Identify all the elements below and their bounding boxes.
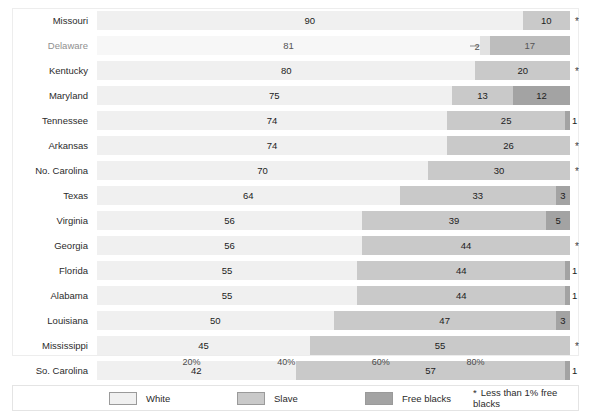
- bar-track: 7030: [97, 161, 570, 180]
- segment-value-label: 55: [222, 290, 233, 301]
- bar-track: 9010: [97, 11, 570, 30]
- bar-segment-white: 56: [97, 211, 362, 230]
- less-than-one-percent-marker: *: [575, 58, 579, 83]
- segment-value-label: 56: [224, 215, 235, 226]
- segment-value-label: 20: [517, 65, 528, 76]
- legend-swatch: [109, 392, 137, 405]
- chart-row: Tennessee74251: [0, 108, 603, 133]
- bar-track: 8020: [97, 61, 570, 80]
- segment-value-label-edge: 1: [572, 258, 577, 283]
- bar-segment-slave: 33: [400, 186, 556, 205]
- bar-segment-slave: 20: [475, 61, 570, 80]
- x-tick-label: 80%: [466, 357, 484, 367]
- segment-value-label: 47: [439, 315, 450, 326]
- segment-value-label: 64: [243, 190, 254, 201]
- segment-value-label: 80: [281, 65, 292, 76]
- bar-segment-free: [565, 261, 570, 280]
- segment-value-label: 3: [560, 190, 565, 201]
- row-label-maryland: Maryland: [0, 83, 88, 108]
- bar-track: 5544: [97, 286, 570, 305]
- bar-track: 5544: [97, 261, 570, 280]
- bar-segment-white: 45: [97, 336, 310, 355]
- bar-track: 4555: [97, 336, 570, 355]
- bar-track: 5644: [97, 236, 570, 255]
- bar-segment-white: 55: [97, 261, 357, 280]
- stacked-bar-chart: Missouri9010*Delaware81217Kentucky8020*M…: [0, 0, 603, 418]
- segment-value-label: 57: [425, 365, 436, 376]
- bar-track: 7425: [97, 111, 570, 130]
- segment-value-label: 90: [305, 15, 316, 26]
- bar-segment-slave: 2: [480, 36, 489, 55]
- row-label-so-carolina: So. Carolina: [0, 358, 88, 383]
- segment-value-label: 3: [560, 315, 565, 326]
- legend-label: White: [146, 393, 170, 404]
- chart-row: Maryland751312: [0, 83, 603, 108]
- segment-value-label: 50: [210, 315, 221, 326]
- row-label-alabama: Alabama: [0, 283, 88, 308]
- legend-item-white[interactable]: White: [109, 392, 170, 405]
- chart-row: Mississippi4555*: [0, 333, 603, 358]
- row-label-georgia: Georgia: [0, 233, 88, 258]
- row-label-tennessee: Tennessee: [0, 108, 88, 133]
- segment-value-label: 75: [269, 90, 280, 101]
- chart-row: Delaware81217: [0, 33, 603, 58]
- bar-segment-white: 90: [97, 11, 523, 30]
- less-than-one-percent-marker: *: [575, 233, 579, 258]
- row-label-no-carolina: No. Carolina: [0, 158, 88, 183]
- bar-segment-slave: 25: [447, 111, 565, 130]
- legend-item-slave[interactable]: Slave: [237, 392, 298, 405]
- segment-value-label-outside: 2: [475, 40, 480, 51]
- segment-value-label: 70: [257, 165, 268, 176]
- chart-row: Kentucky8020*: [0, 58, 603, 83]
- bar-segment-free: 12: [513, 86, 570, 105]
- legend-item-free-blacks[interactable]: Free blacks: [365, 392, 451, 405]
- chart-row: No. Carolina7030*: [0, 158, 603, 183]
- row-label-louisiana: Louisiana: [0, 308, 88, 333]
- bar-track: 64333: [97, 186, 570, 205]
- bar-segment-slave: 44: [357, 261, 565, 280]
- segment-value-label: 56: [224, 240, 235, 251]
- row-label-mississippi: Mississippi: [0, 333, 88, 358]
- bar-segment-free: 3: [556, 186, 570, 205]
- less-than-one-percent-marker: *: [575, 133, 579, 158]
- bar-segment-free: [565, 111, 570, 130]
- segment-value-label-edge: 1: [572, 283, 577, 308]
- bar-segment-slave: 55: [310, 336, 570, 355]
- segment-value-label: 25: [501, 115, 512, 126]
- bar-segment-white: 70: [97, 161, 428, 180]
- bar-segment-free: 17: [490, 36, 570, 55]
- segment-value-label: 33: [472, 190, 483, 201]
- segment-value-label: 81: [283, 40, 294, 51]
- chart-row: Arkansas7426*: [0, 133, 603, 158]
- segment-value-label: 55: [222, 265, 233, 276]
- segment-value-label: 12: [536, 90, 547, 101]
- bar-segment-slave: 13: [452, 86, 513, 105]
- chart-legend: WhiteSlaveFree blacks*Less than 1% free …: [12, 385, 579, 411]
- bar-segment-slave: 10: [523, 11, 570, 30]
- bar-segment-white: 56: [97, 236, 362, 255]
- bar-track: 56395: [97, 211, 570, 230]
- segment-value-label: 10: [541, 15, 552, 26]
- bar-segment-white: 80: [97, 61, 475, 80]
- bar-segment-slave: 26: [447, 136, 570, 155]
- segment-value-label: 74: [267, 115, 278, 126]
- bar-track: 751312: [97, 86, 570, 105]
- bar-segment-white: 50: [97, 311, 334, 330]
- bar-segment-slave: 44: [362, 236, 570, 255]
- segment-value-label: 39: [449, 215, 460, 226]
- row-label-missouri: Missouri: [0, 8, 88, 33]
- x-tick-label: 40%: [277, 357, 295, 367]
- bar-segment-white: 74: [97, 111, 447, 130]
- row-label-delaware: Delaware: [0, 33, 88, 58]
- segment-value-label: 5: [556, 215, 561, 226]
- row-label-kentucky: Kentucky: [0, 58, 88, 83]
- x-tick-label: 60%: [372, 357, 390, 367]
- segment-value-label: 45: [198, 340, 209, 351]
- segment-value-label: 26: [503, 140, 514, 151]
- bar-segment-slave: 44: [357, 286, 565, 305]
- legend-footnote-marker: *: [473, 387, 477, 398]
- bar-segment-slave: 47: [334, 311, 556, 330]
- less-than-one-percent-marker: *: [575, 8, 579, 33]
- row-label-virginia: Virginia: [0, 208, 88, 233]
- bar-segment-white: 74: [97, 136, 447, 155]
